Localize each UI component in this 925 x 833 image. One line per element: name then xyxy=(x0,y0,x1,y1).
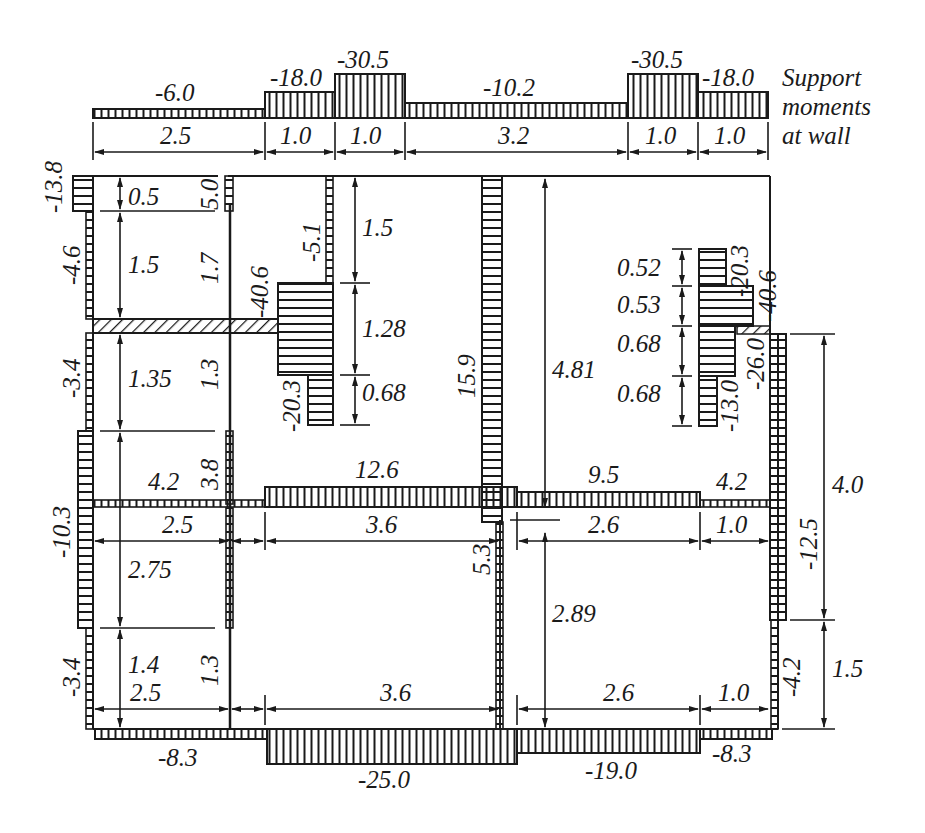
moment-label: -3.4 xyxy=(58,657,85,697)
mid-horizontal-dimensions xyxy=(95,512,768,550)
top-moment-label: -30.5 xyxy=(337,46,389,73)
dimension-label: 1.0 xyxy=(718,679,750,706)
dimension-label: 1.4 xyxy=(128,651,159,678)
top-span-label: 1.0 xyxy=(280,122,312,149)
moment-label: -25.0 xyxy=(358,766,411,793)
dimension-label: 2.6 xyxy=(603,679,635,706)
dimension-label: 1.28 xyxy=(362,315,406,342)
moment-label: -8.3 xyxy=(712,740,752,767)
right-inner-dimensions xyxy=(672,249,692,426)
moment-label: -40.6 xyxy=(754,269,781,322)
moment-label: -19.0 xyxy=(585,757,638,784)
dimension-label: 4.0 xyxy=(832,471,864,498)
dimension-label: 4.81 xyxy=(552,356,596,383)
top-span-label: 1.0 xyxy=(350,122,382,149)
dimension-label: 2.5 xyxy=(130,679,161,706)
moment-label: 1.3 xyxy=(196,655,223,686)
dimension-label: 1.35 xyxy=(128,365,172,392)
dimension-label: 0.68 xyxy=(617,330,661,357)
dimension-label: 0.68 xyxy=(617,380,661,407)
top-moment-label: -30.5 xyxy=(631,46,683,73)
beam-left xyxy=(93,319,278,333)
moment-label: 4.2 xyxy=(716,468,747,495)
moment-label: -5.1 xyxy=(298,222,325,262)
moment-label: -4.2 xyxy=(778,657,805,697)
dimension-label: 0.53 xyxy=(617,291,661,318)
moment-label: -13.8 xyxy=(40,160,67,213)
dimension-label: 1.5 xyxy=(832,655,863,682)
center-column-moments xyxy=(482,176,503,729)
top-span-label: 1.0 xyxy=(714,122,746,149)
moment-label: 9.5 xyxy=(588,461,619,488)
top-span-label: 2.5 xyxy=(160,122,191,149)
note-line-2: moments xyxy=(782,93,871,120)
moment-label: -20.3 xyxy=(726,245,753,297)
dimension-label: 1.5 xyxy=(128,251,159,278)
moment-label: 4.2 xyxy=(148,468,179,495)
dimension-label: 1.0 xyxy=(716,511,748,538)
top-span-label: 1.0 xyxy=(645,122,677,149)
bottom-horizontal-dimensions xyxy=(95,695,768,725)
top-moment-label: -10.2 xyxy=(483,74,535,101)
top-moment-label: -18.0 xyxy=(702,64,755,91)
moment-label: 1.3 xyxy=(196,359,223,390)
dimension-label: 2.75 xyxy=(128,556,172,583)
note-line-1: Support xyxy=(782,64,862,91)
moment-label: -4.6 xyxy=(58,245,85,285)
top-span-label: 3.2 xyxy=(497,122,529,149)
top-moment-label: -18.0 xyxy=(270,64,323,91)
moment-label: 15.9 xyxy=(453,354,480,398)
moment-label: -13.0 xyxy=(716,379,743,432)
dimension-label: 0.68 xyxy=(362,379,406,406)
dimension-label: 0.52 xyxy=(617,254,661,281)
moment-label: -26.0 xyxy=(742,337,769,390)
moment-label: -10.3 xyxy=(48,506,75,558)
moment-label: 1.7 xyxy=(196,251,223,284)
moment-label: -8.3 xyxy=(158,744,198,771)
moment-label: 3.8 xyxy=(196,458,223,491)
dimension-label: 0.5 xyxy=(128,183,159,210)
moment-label: 5.3 xyxy=(468,544,495,575)
dimension-label: 2.5 xyxy=(162,511,193,538)
moment-label: -3.4 xyxy=(58,358,85,398)
moment-label: -40.6 xyxy=(246,265,273,318)
note-line-3: at wall xyxy=(782,122,851,149)
beam-right xyxy=(737,326,770,334)
dimension-label: 1.5 xyxy=(362,214,393,241)
moment-label: 12.6 xyxy=(355,456,399,483)
slab-moment-diagram: -6.0 -18.0 -30.5 -10.2 -30.5 -18.0 Suppo… xyxy=(0,0,925,833)
dimension-label: 2.6 xyxy=(588,511,620,538)
dimension-label: 3.6 xyxy=(379,679,412,706)
dimension-label: 2.89 xyxy=(552,600,596,627)
top-moment-label: -6.0 xyxy=(155,79,195,106)
center-vertical-dimension xyxy=(510,179,560,727)
moment-label: 5.0 xyxy=(196,178,223,210)
moment-label: -20.3 xyxy=(278,380,305,432)
dimension-label: 3.6 xyxy=(365,511,398,538)
moment-label: -12.5 xyxy=(795,518,822,570)
mid-moment-strip xyxy=(93,487,770,507)
